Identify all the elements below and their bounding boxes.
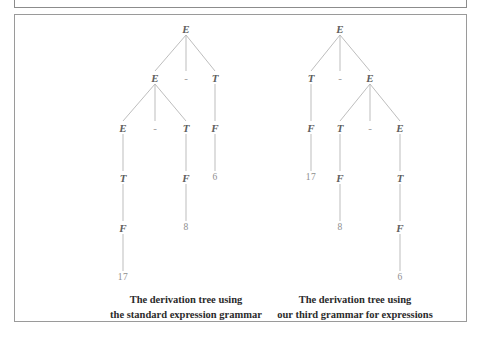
tree-node-operator-l5: - — [153, 123, 157, 134]
figure-stage: EE-TE-TFTF6F817ET-EFT-E17FT8F6 The deriv… — [0, 0, 480, 342]
right-tree-caption: The derivation tree usingour third gramm… — [277, 292, 433, 322]
tree-node-terminal-l12: 8 — [183, 223, 188, 233]
tree-node-operator-r2: - — [338, 73, 342, 84]
tree-node-nonterminal-l8: T — [120, 173, 127, 184]
tree-node-nonterminal-r5: T — [337, 123, 344, 134]
tree-node-nonterminal-r3: E — [366, 73, 373, 84]
tree-node-nonterminal-r1: T — [308, 73, 315, 84]
tree-node-terminal-l13: 17 — [118, 273, 128, 283]
tree-node-nonterminal-l1: E — [151, 73, 158, 84]
right-tree-caption-line1: The derivation tree using — [277, 292, 433, 307]
tree-node-terminal-r11: 8 — [337, 223, 342, 233]
left-tree-caption-line1: The derivation tree using — [110, 292, 262, 307]
left-tree-caption-line2: the standard expression grammar — [110, 307, 262, 322]
left-tree-caption: The derivation tree usingthe standard ex… — [110, 292, 262, 322]
tree-node-nonterminal-l11: F — [119, 223, 126, 234]
tree-node-operator-l2: - — [184, 73, 188, 84]
tree-node-terminal-r13: 6 — [397, 273, 402, 283]
tree-node-terminal-l10: 6 — [212, 173, 217, 183]
tree-node-nonterminal-r7: E — [396, 123, 403, 134]
tree-node-nonterminal-l0: E — [182, 24, 189, 35]
tree-node-operator-r6: - — [368, 123, 372, 134]
tree-node-nonterminal-r9: F — [336, 173, 343, 184]
tree-node-nonterminal-l7: F — [211, 123, 218, 134]
right-tree-caption-line2: our third grammar for expressions — [277, 307, 433, 322]
tree-node-nonterminal-l9: F — [182, 173, 189, 184]
tree-node-nonterminal-r4: F — [307, 123, 314, 134]
tree-node-nonterminal-r10: T — [397, 173, 404, 184]
tree-node-nonterminal-l6: T — [183, 123, 190, 134]
tree-node-nonterminal-l3: T — [212, 73, 219, 84]
tree-node-nonterminal-l4: E — [119, 123, 126, 134]
previous-figure-box-edge — [14, 0, 467, 8]
tree-node-nonterminal-r0: E — [336, 24, 343, 35]
tree-node-nonterminal-r12: F — [396, 223, 403, 234]
tree-node-terminal-r8: 17 — [306, 173, 316, 183]
